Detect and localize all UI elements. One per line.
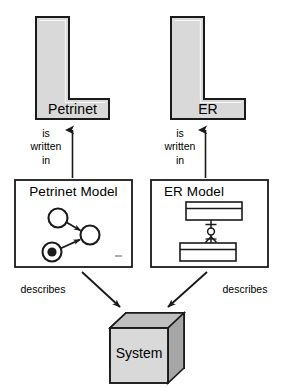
diagram-canvas: Petrinet ER is written in is written in … — [0, 0, 283, 387]
er-optional-circle — [208, 228, 215, 235]
petrinet-model-title: Petrinet Model — [15, 184, 132, 200]
describes-arrow-left — [82, 272, 120, 307]
er-entity-bottom — [180, 243, 236, 261]
er-entity-top — [186, 202, 242, 220]
er-model-title: ER Model — [151, 184, 261, 200]
describes-label-right: describes — [214, 283, 276, 296]
petri-token — [47, 247, 56, 256]
petri-place-top-left — [49, 209, 68, 228]
er-language-label: ER — [171, 101, 245, 117]
describes-label-left: describes — [12, 283, 74, 296]
system-label: System — [110, 345, 168, 361]
describes-arrow-right — [168, 272, 207, 307]
petri-place-right — [81, 226, 100, 245]
written-in-label-left: is written in — [22, 127, 70, 167]
written-in-label-right: is written in — [157, 127, 203, 167]
petrinet-language-label: Petrinet — [36, 101, 109, 117]
